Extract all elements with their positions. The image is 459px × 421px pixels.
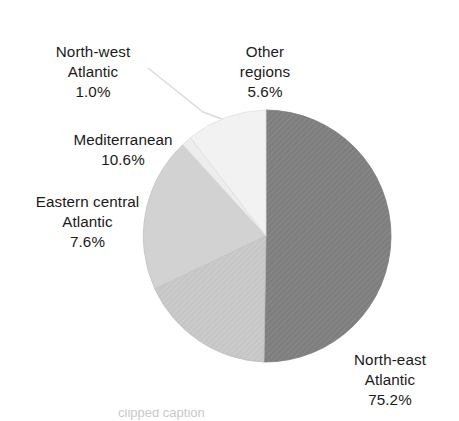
slice-label-text: North-east Atlantic	[354, 351, 426, 388]
slice-label-percent: 75.2%	[328, 390, 452, 410]
slice-label-percent: 10.6%	[38, 150, 208, 170]
slice-label-north-west-atlantic: North-west Atlantic 1.0%	[18, 22, 168, 122]
clipped-caption-region: clipped caption	[0, 409, 459, 421]
slice-label-other-regions: Other regions 5.6%	[205, 22, 325, 122]
slice-label-text: North-west Atlantic	[56, 43, 130, 80]
slice-label-percent: 1.0%	[18, 82, 168, 102]
slice-label-text: Other regions	[240, 43, 291, 80]
pie-chart-figure: North-west Atlantic 1.0% Other regions 5…	[0, 0, 459, 421]
slice-label-percent: 7.6%	[10, 232, 165, 252]
slice-label-north-east-atlantic: North-east Atlantic 75.2%	[328, 330, 452, 421]
slice-label-eastern-central-atlantic: Eastern central Atlantic 7.6%	[10, 172, 165, 272]
slice-label-text: Mediterranean	[73, 131, 172, 148]
slice-label-text: Eastern central Atlantic	[36, 193, 140, 230]
pie-slice-north-east-atlantic[interactable]	[264, 110, 391, 362]
clipped-caption-text: clipped caption	[118, 409, 205, 420]
slice-label-percent: 5.6%	[205, 82, 325, 102]
